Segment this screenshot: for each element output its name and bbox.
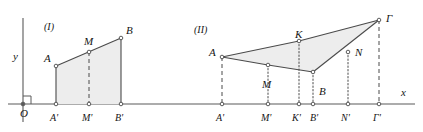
figure-2-point-marker-A xyxy=(220,55,224,59)
figure-2-point-marker-Np xyxy=(346,102,350,106)
figure-2-point-marker-Kp xyxy=(297,102,301,106)
figure-2-point-marker-G xyxy=(377,18,381,22)
figure-2-point-label-Bp: B' xyxy=(310,113,318,123)
origin-label: O xyxy=(20,108,28,119)
figure-2-point-marker-Bp xyxy=(311,102,315,106)
figure-2-point-marker-B xyxy=(311,70,315,74)
x-axis-label: x xyxy=(401,87,406,98)
figure-1-point-marker-Ap xyxy=(54,102,58,106)
figure-2-point-marker-M xyxy=(266,63,270,67)
figure-1-point-label-M: M xyxy=(84,36,93,47)
figure-1-point-marker-M xyxy=(87,50,91,54)
figure-2-point-label-K: K xyxy=(295,29,302,40)
figure-2-point-label-N: N xyxy=(355,47,362,58)
figure-1-point-label-Bp: B' xyxy=(115,113,123,123)
figure-1-caption: (I) xyxy=(44,22,54,32)
figure-2-point-label-Np: N' xyxy=(341,113,350,123)
figure-1-point-marker-B xyxy=(119,36,123,40)
figure-2-point-marker-Gp xyxy=(377,102,381,106)
figure-2-point-marker-Ap xyxy=(220,102,224,106)
figure-2-point-marker-Mp xyxy=(266,102,270,106)
figure-1-point-label-A: A xyxy=(44,53,51,64)
figure-1-point-marker-A xyxy=(54,64,58,68)
figure-1-point-marker-Mp xyxy=(87,102,91,106)
geometry-diagram-svg xyxy=(0,0,423,132)
figure-2-point-label-Mp: M' xyxy=(261,113,271,123)
figure-1-point-marker-Bp xyxy=(119,102,123,106)
figure-2-point-marker-N xyxy=(346,50,350,54)
figure-1-point-label-Mp: M' xyxy=(82,113,92,123)
figure-2-point-label-B: B xyxy=(319,86,326,97)
figure-2-point-label-A: A xyxy=(209,47,216,58)
figure-1-point-label-B: B xyxy=(126,25,133,36)
origin-point-marker xyxy=(21,102,25,106)
geometry-figure-canvas: x y O (I) (II) AMBA'M'B'AMKBNΓA'M'K'B'N'… xyxy=(0,0,423,132)
figure-2-point-label-M: M xyxy=(262,79,271,90)
figure-2-point-label-G: Γ xyxy=(386,13,392,24)
figure-2-point-label-Kp: K' xyxy=(292,113,301,123)
figure-2-point-label-Gp: Γ' xyxy=(373,113,381,123)
figure-1-point-label-Ap: A' xyxy=(50,113,58,123)
y-axis-label: y xyxy=(13,51,18,62)
figure-2-caption: (II) xyxy=(194,25,207,35)
figure-2-point-label-Ap: A' xyxy=(216,113,224,123)
